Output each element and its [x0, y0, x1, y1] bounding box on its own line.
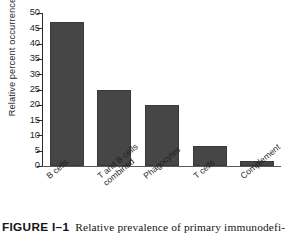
figure-container: Relative percent occurrence 051015202530…	[0, 0, 291, 240]
bar	[50, 22, 84, 166]
figure-caption: FIGURE I–1 Relative prevalence of primar…	[2, 221, 291, 234]
x-axis-category-labels: B cellsT and B cellscombinedPhagocytesT …	[0, 168, 291, 218]
figure-label: FIGURE I–1	[2, 220, 69, 234]
bar-series	[0, 0, 291, 176]
chart-plot-area: Relative percent occurrence 051015202530…	[0, 0, 291, 176]
figure-caption-text: Relative prevalence of primary immunodef…	[75, 221, 285, 233]
